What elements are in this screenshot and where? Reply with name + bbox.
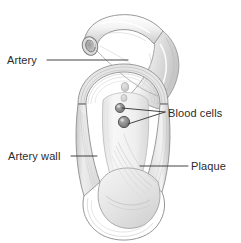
blood-cell [118,116,129,127]
artery-plaque-figure: Artery Blood cells Artery wall Plaque [0,0,241,243]
label-artery: Artery [7,54,37,66]
artery-tube [80,15,163,58]
label-artery-wall: Artery wall [8,150,60,162]
blood-cell [121,83,128,92]
label-blood-cells: Blood cells [168,107,222,119]
artery-wall [76,104,100,196]
artery-illustration [0,0,241,243]
lumen [102,93,148,181]
blood-cell [121,94,127,101]
label-plaque: Plaque [191,160,226,172]
